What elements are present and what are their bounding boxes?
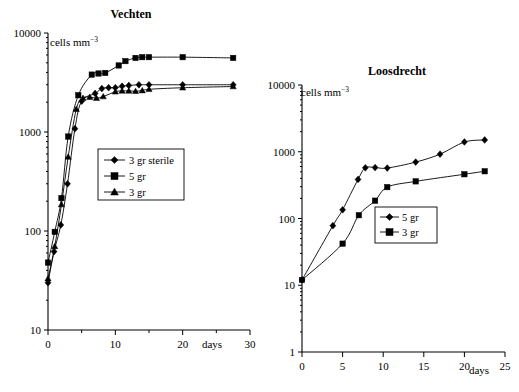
data-point-marker bbox=[66, 134, 71, 139]
data-point-marker bbox=[355, 176, 361, 183]
data-point-marker bbox=[461, 139, 467, 146]
x-axis-tick-label: 20 bbox=[177, 338, 189, 350]
data-point-marker bbox=[462, 172, 467, 177]
data-point-marker bbox=[103, 70, 108, 75]
y-axis-tick-label: 1000 bbox=[273, 146, 296, 158]
data-point-marker bbox=[59, 195, 64, 200]
vechten-svg: Vechten cells mm−3 100001000100100102030… bbox=[0, 0, 262, 392]
y-axis-tick-label: 100 bbox=[25, 225, 42, 237]
data-point-marker bbox=[482, 137, 488, 144]
legend-marker-square-r bbox=[386, 229, 393, 236]
page-title-loosdrecht: Loosdrecht bbox=[368, 64, 426, 78]
data-point-marker bbox=[146, 54, 151, 59]
x-axis-label-loosdrecht: days bbox=[469, 364, 489, 376]
data-point-marker bbox=[413, 179, 418, 184]
x-axis-tick-label: 10 bbox=[378, 360, 390, 372]
data-point-marker bbox=[356, 213, 361, 218]
data-point-marker bbox=[372, 198, 377, 203]
y-axis-tick-label: 100 bbox=[279, 213, 296, 225]
legend-marker-square bbox=[111, 173, 118, 180]
data-point-marker bbox=[133, 55, 138, 60]
legend-label-r1: 3 gr bbox=[402, 227, 419, 238]
data-point-marker bbox=[45, 260, 50, 265]
legend-loosdrecht: 5 gr 3 gr bbox=[375, 207, 437, 243]
legend-vechten: 3 gr sterile 5 gr 3 gr bbox=[98, 149, 184, 200]
legend-label-1: 5 gr bbox=[129, 171, 146, 182]
data-point-marker bbox=[116, 63, 121, 68]
data-point-marker bbox=[230, 55, 235, 60]
data-point-marker bbox=[340, 241, 345, 246]
data-point-marker bbox=[437, 151, 443, 158]
legend-label-2: 3 gr bbox=[129, 187, 146, 198]
data-point-marker bbox=[413, 159, 419, 166]
data-point-marker bbox=[299, 277, 304, 282]
data-point-marker bbox=[96, 71, 101, 76]
chart-panel-loosdrecht: Loosdrecht cells mm−3 100001000100101051… bbox=[257, 0, 519, 392]
legend-label-r0: 5 gr bbox=[402, 212, 419, 223]
data-point-marker bbox=[482, 169, 487, 174]
x-axis-tick-label: 10 bbox=[110, 338, 122, 350]
y-axis-tick-label: 10 bbox=[30, 324, 42, 336]
y-axis-tick-label: 10 bbox=[284, 279, 296, 291]
data-point-marker bbox=[385, 184, 390, 189]
y-axis-tick-label: 10000 bbox=[268, 79, 296, 91]
data-point-marker bbox=[180, 54, 185, 59]
data-point-marker bbox=[136, 81, 142, 88]
y-axis-unit-label-vechten: cells mm−3 bbox=[50, 35, 98, 49]
data-point-marker bbox=[123, 58, 128, 63]
data-point-marker bbox=[372, 164, 378, 171]
data-point-marker bbox=[65, 180, 71, 187]
data-point-marker bbox=[58, 201, 64, 206]
y-axis-tick-label: 1000 bbox=[19, 126, 42, 138]
y-axis-tick-label: 10000 bbox=[14, 27, 42, 39]
data-point-marker bbox=[140, 54, 145, 59]
loosdrecht-svg: Loosdrecht cells mm−3 100001000100101051… bbox=[257, 0, 519, 392]
x-axis-tick-label: 5 bbox=[340, 360, 346, 372]
data-point-marker bbox=[384, 165, 390, 172]
x-axis-tick-label: 15 bbox=[418, 360, 430, 372]
x-axis-tick-label: 25 bbox=[500, 360, 512, 372]
data-point-marker bbox=[106, 84, 112, 91]
data-point-marker bbox=[45, 276, 51, 281]
x-axis-tick-label: 0 bbox=[45, 338, 51, 350]
x-axis-tick-label: 0 bbox=[299, 360, 305, 372]
y-axis-unit-label-loosdrecht: cells mm−3 bbox=[301, 85, 349, 99]
data-point-marker bbox=[340, 206, 346, 213]
data-point-marker bbox=[76, 93, 81, 98]
x-axis-tick-label: 30 bbox=[245, 338, 257, 350]
data-point-marker bbox=[99, 85, 105, 92]
x-axis-label-vechten: days bbox=[202, 338, 222, 350]
page-title-vechten: Vechten bbox=[111, 7, 152, 21]
data-point-marker bbox=[89, 72, 94, 77]
data-point-marker bbox=[330, 222, 336, 229]
y-axis-tick-label: 1 bbox=[290, 346, 296, 358]
legend-label-0: 3 gr sterile bbox=[129, 155, 174, 166]
chart-panel-vechten: Vechten cells mm−3 100001000100100102030… bbox=[0, 0, 262, 392]
figure-root: Vechten cells mm−3 100001000100100102030… bbox=[0, 0, 519, 392]
